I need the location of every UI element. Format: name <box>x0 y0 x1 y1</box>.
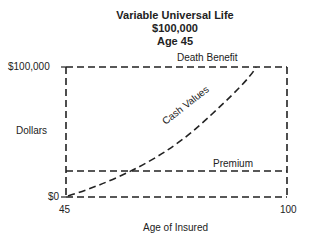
x-tick-right: 100 <box>280 204 297 215</box>
x-axis-label: Age of Insured <box>143 222 208 233</box>
y-tick-bottom: $0 <box>48 191 59 202</box>
death-benefit-label: Death Benefit <box>177 52 238 63</box>
y-axis-label: Dollars <box>16 125 47 136</box>
y-tick-top: $100,000 <box>8 61 50 72</box>
premium-label: Premium <box>213 158 253 169</box>
cash-values-curve <box>68 67 256 196</box>
chart-plot <box>0 0 310 242</box>
x-tick-left: 45 <box>59 204 70 215</box>
